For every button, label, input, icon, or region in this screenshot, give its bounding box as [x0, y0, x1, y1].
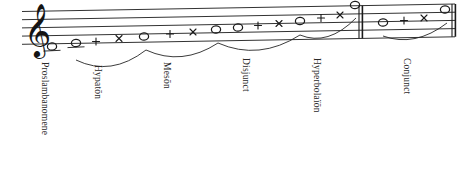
notehead-14 [350, 1, 360, 9]
cross-mark-17 [421, 15, 427, 21]
svg-text:𝄞: 𝄞 [24, 3, 51, 59]
treble-clef-icon: 𝄞 [24, 3, 51, 59]
whole-notehead-14 [350, 1, 360, 9]
staff-line-4 [22, 29, 455, 36]
plus-mark-9 [255, 22, 262, 29]
plus-mark-12 [318, 15, 325, 22]
cross-mark-13 [337, 12, 343, 18]
whole-notehead-8 [233, 23, 243, 31]
notehead-11 [295, 17, 305, 25]
staff-line-1 [22, 4, 455, 12]
label-proslambanomene: Proslambanomene [40, 62, 50, 135]
slur-disjunct [218, 35, 300, 50]
plus-mark-5 [167, 31, 174, 38]
label-disjunct: Disjunct [241, 58, 251, 92]
slur-hyperbolaion [300, 18, 356, 38]
plus-mark-16 [401, 17, 408, 24]
label-conjunct: Conjunct [402, 58, 412, 94]
staff-line-2 [22, 12, 455, 20]
whole-notehead-11 [295, 17, 305, 25]
musical-notation-figure: 𝄞 ProslambanomeneHypatōnMesōnDisjunctHyp… [0, 0, 471, 180]
label-hyperbolaion: Hyperbolaïōn [312, 58, 322, 113]
slur-meson [146, 43, 218, 57]
cross-mark-6 [190, 29, 196, 35]
whole-notehead-15 [378, 18, 388, 26]
slur-hypaton [76, 50, 146, 67]
notehead-8 [233, 23, 243, 31]
cross-mark-3 [116, 36, 122, 42]
staff-svg: 𝄞 [0, 0, 471, 180]
label-hypaton: Hypatōn [93, 65, 103, 99]
label-meson: Mesōn [162, 62, 172, 89]
plus-mark-2 [93, 38, 100, 45]
notehead-15 [378, 18, 388, 26]
